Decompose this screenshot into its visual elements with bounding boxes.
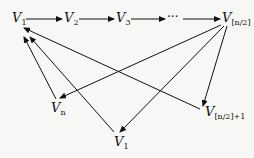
node-v1-top: V1 (12, 11, 26, 27)
edge-vhalf-vhalfplus1 (203, 26, 227, 106)
node-v-n: Vn (51, 101, 66, 117)
node-ellipsis: ··· (167, 10, 178, 24)
node-v-half: V[n/2] (222, 11, 251, 27)
edge-v1bottom-v1 (30, 37, 114, 132)
edge-vhalfplus1-v1 (24, 28, 200, 109)
edge-vhalf-vn (60, 25, 221, 98)
node-v1-bottom: V1 (114, 135, 128, 151)
node-v2: V2 (64, 11, 78, 27)
diagram-canvas: V1 V2 V3 ··· V[n/2] V[n/2]+1 Vn V1 (0, 0, 254, 158)
edge-vn-v1 (24, 37, 56, 99)
node-v3: V3 (116, 11, 130, 27)
node-v-half-plus1: V[n/2]+1 (205, 105, 245, 121)
